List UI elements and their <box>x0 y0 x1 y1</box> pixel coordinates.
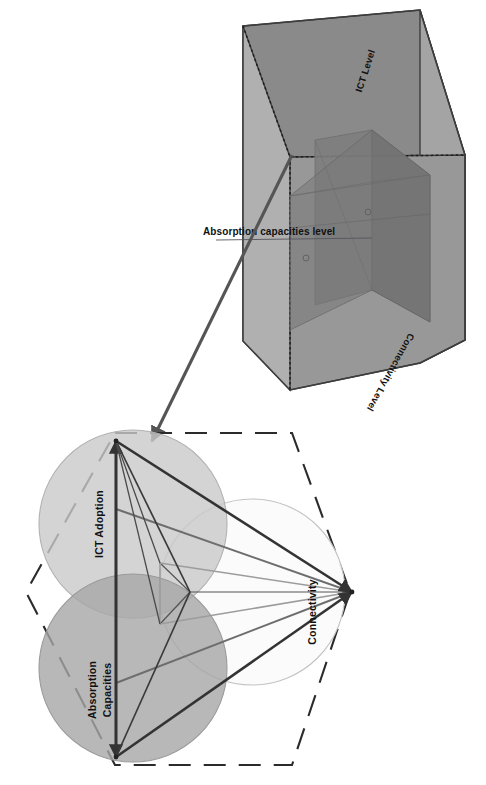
label-absorption-line1: Absorption <box>86 661 98 719</box>
label-connectivity: Connectivity <box>306 579 318 644</box>
vertex-connectivity <box>350 590 355 595</box>
figure-root: ICT Level Connectivity Level Absorption … <box>0 0 486 785</box>
vertex-ict-adoption <box>114 439 119 444</box>
label-absorption-capacities-level: Absorption capacities level <box>203 226 335 237</box>
label-absorption-line2: Capacities <box>101 663 113 718</box>
label-ict-adoption: ICT Adoption <box>93 490 105 558</box>
vertex-absorption-capacities <box>114 755 119 760</box>
circle-absorption-capacities <box>39 574 227 762</box>
framework-diagram: ICT Level Connectivity Level Absorption … <box>0 0 486 785</box>
